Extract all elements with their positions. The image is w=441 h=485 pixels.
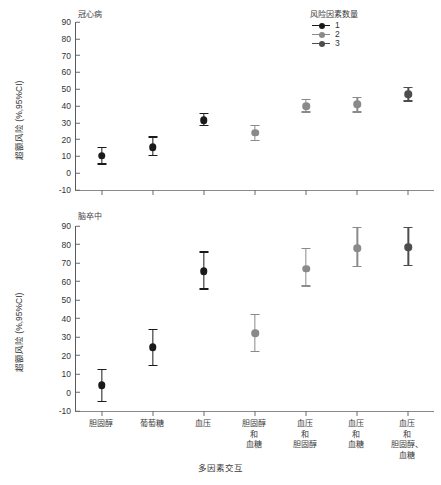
data-point[interactable] [405,90,413,98]
error-bar-cap [302,111,311,112]
x-tick-mark [357,411,358,416]
data-point[interactable] [405,244,413,252]
error-bar-cap [148,136,157,137]
y-tick-label: 70 [62,259,76,268]
x-tick-label: 血压和胆固醇、血糖 [391,419,423,461]
error-bar-cap [199,125,208,126]
legend-item-label: 3 [335,39,340,48]
data-point[interactable] [149,343,157,351]
data-point[interactable] [354,101,362,109]
y-tick-label: -10 [59,186,76,195]
x-tick-mark [306,190,307,195]
error-bar-cap [199,113,208,114]
legend-marker-icon [310,30,332,39]
error-bar-cap [199,288,208,289]
data-point[interactable] [302,102,310,110]
error-bar-cap [404,100,413,101]
x-tick-label: 血压和血糖 [348,419,364,451]
legend: 风险因素数量 123 [310,8,435,48]
x-tick-mark [255,190,256,195]
x-tick-mark [152,411,153,416]
legend-rows: 123 [310,21,435,48]
error-bar-cap [97,369,106,370]
legend-item[interactable]: 2 [310,30,435,39]
error-bar-cap [251,125,260,126]
legend-item[interactable]: 1 [310,21,435,30]
y-tick-label: 90 [62,222,76,231]
x-tick-mark [408,190,409,195]
figure-root: 冠心病 超额风险 (%,95%CI) 9080706050403020100-1… [0,0,441,485]
x-tick-label: 胆固醇 [89,419,113,430]
error-bar-cap [302,248,311,249]
error-bar-cap [353,227,362,228]
x-tick-mark [255,411,256,416]
y-tick-label: 30 [62,119,76,128]
y-tick-label: 90 [62,18,76,27]
y-axis-label-stroke: 超额风险 (%,95%CI) [12,293,24,372]
y-tick-label: 30 [62,333,76,342]
x-tick-mark [101,411,102,416]
panel-title-stroke: 脑卒中 [78,210,102,221]
x-tick-label: 血压和胆固醇 [293,419,317,451]
error-bar-cap [148,365,157,366]
x-tick-mark [357,190,358,195]
y-tick-label: 60 [62,277,76,286]
error-bar-cap [404,265,413,266]
error-bar-cap [148,329,157,330]
y-tick-label: 60 [62,68,76,77]
error-bar-cap [404,87,413,88]
data-point[interactable] [251,330,259,338]
y-tick-label: 80 [62,35,76,44]
x-tick-mark [152,190,153,195]
error-bar-cap [302,285,311,286]
legend-marker-icon [310,39,332,48]
x-tick-mark [203,411,204,416]
error-bar-cap [148,155,157,156]
x-tick-label: 血压 [195,419,211,430]
plot-area-stroke: 9080706050403020100-10 [75,226,434,412]
error-bar-cap [97,147,106,148]
error-bar-cap [353,266,362,267]
x-tick-mark [306,411,307,416]
error-bar-cap [404,227,413,228]
data-point[interactable] [200,117,208,125]
error-bar-cap [302,99,311,100]
data-point[interactable] [251,129,259,137]
error-bar-cap [353,97,362,98]
y-tick-label: 40 [62,102,76,111]
y-tick-label: 10 [62,152,76,161]
panel-title-chd: 冠心病 [78,8,102,19]
x-tick-label: 葡萄糖 [140,419,164,430]
error-bar-cap [251,351,260,352]
error-bar-cap [97,401,106,402]
x-tick-label: 胆固醇和血糖 [242,419,266,451]
y-tick-label: 10 [62,370,76,379]
y-tick-label: 50 [62,85,76,94]
y-tick-label: 80 [62,240,76,249]
data-point[interactable] [149,143,157,151]
y-tick-label: 50 [62,296,76,305]
y-tick-label: 20 [62,135,76,144]
error-bar-cap [199,251,208,252]
data-point[interactable] [302,265,310,273]
error-bar-cap [353,111,362,112]
data-point[interactable] [354,244,362,252]
x-tick-mark [101,190,102,195]
legend-item[interactable]: 3 [310,39,435,48]
panel-stroke: 脑卒中 9080706050403020100-10 [0,200,441,415]
legend-marker-icon [310,21,332,30]
x-tick-mark [203,190,204,195]
y-tick-label: 40 [62,314,76,323]
y-tick-label: 70 [62,51,76,60]
y-axis-label-chd: 超额风险 (%,95%CI) [12,81,24,160]
y-tick-label: -10 [59,407,76,416]
x-tick-mark [408,411,409,416]
y-tick-label: 0 [66,169,76,178]
y-tick-label: 0 [66,388,76,397]
error-bar-cap [251,140,260,141]
x-axis-title: 多因素交互 [0,461,441,473]
data-point[interactable] [98,152,106,160]
data-point[interactable] [98,381,106,389]
data-point[interactable] [200,268,208,276]
legend-title: 风险因素数量 [310,8,435,19]
